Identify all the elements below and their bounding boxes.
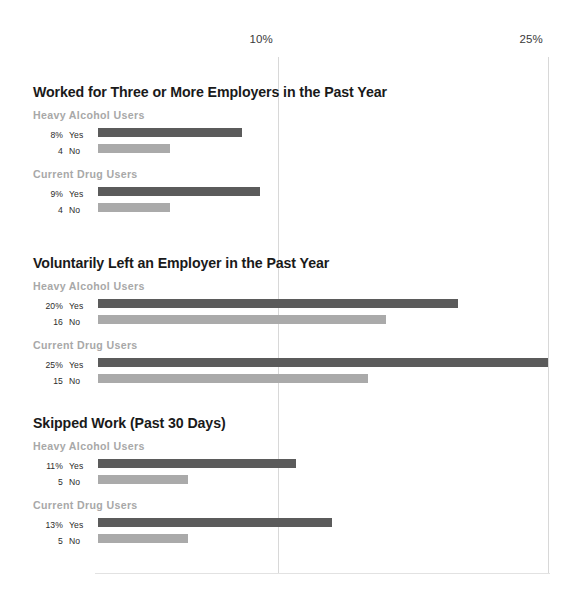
bar-category-label: Yes <box>69 301 83 311</box>
bar-value-label: 9% <box>33 189 63 199</box>
bar-value-label: 5 <box>33 477 63 487</box>
bar-value-label: 20% <box>33 301 63 311</box>
bar-value-label: 8% <box>33 130 63 140</box>
bar-value-label: 15 <box>33 376 63 386</box>
bar-row: 9%Yes <box>33 187 387 200</box>
bar-group: Heavy Alcohol Users8%Yes4No <box>33 109 387 157</box>
bar-row: 16No <box>33 315 329 328</box>
bar-category-label: Yes <box>69 360 83 370</box>
bar-row: 11%Yes <box>33 459 226 472</box>
bar-track <box>98 203 170 212</box>
bar-fill-no <box>98 203 170 212</box>
bar-value-label: 4 <box>33 146 63 156</box>
bar-track <box>98 187 260 196</box>
bar-value-label: 11% <box>33 461 63 471</box>
bar-track <box>98 475 188 484</box>
bar-group: Heavy Alcohol Users20%Yes16No <box>33 280 329 328</box>
bar-group-label: Current Drug Users <box>33 499 226 511</box>
bar-category-label: No <box>69 146 80 156</box>
chart-section: Skipped Work (Past 30 Days)Heavy Alcohol… <box>33 415 226 558</box>
bar-value-label: 13% <box>33 520 63 530</box>
bar-row: 20%Yes <box>33 299 329 312</box>
bar-row: 4No <box>33 144 387 157</box>
bar-fill-no <box>98 475 188 484</box>
bar-track <box>98 534 188 543</box>
bar-group: Heavy Alcohol Users11%Yes5No <box>33 440 226 488</box>
bar-row: 5No <box>33 534 226 547</box>
bar-fill-no <box>98 144 170 153</box>
bar-fill-yes <box>98 518 332 527</box>
chart-root: 10%25% Worked for Three or More Employer… <box>0 0 577 603</box>
bar-category-label: Yes <box>69 461 83 471</box>
bar-category-label: No <box>69 205 80 215</box>
bar-row: 8%Yes <box>33 128 387 141</box>
bar-group-label: Heavy Alcohol Users <box>33 440 226 452</box>
bar-category-label: No <box>69 477 80 487</box>
bar-track <box>98 374 368 383</box>
bar-fill-yes <box>98 358 548 367</box>
bar-fill-no <box>98 534 188 543</box>
bar-track <box>98 128 242 137</box>
bar-row: 4No <box>33 203 387 216</box>
bar-track <box>98 358 548 367</box>
bar-fill-yes <box>98 128 242 137</box>
bar-row: 15No <box>33 374 329 387</box>
bar-fill-yes <box>98 187 260 196</box>
axis-tick-label: 25% <box>519 33 549 45</box>
bar-category-label: No <box>69 317 80 327</box>
bar-group-label: Current Drug Users <box>33 168 387 180</box>
bar-track <box>98 144 170 153</box>
bar-value-label: 4 <box>33 205 63 215</box>
bar-category-label: No <box>69 536 80 546</box>
bar-group: Current Drug Users13%Yes5No <box>33 499 226 547</box>
bar-value-label: 25% <box>33 360 63 370</box>
bar-row: 5No <box>33 475 226 488</box>
bar-category-label: Yes <box>69 189 83 199</box>
bar-group-label: Heavy Alcohol Users <box>33 280 329 292</box>
bar-fill-yes <box>98 459 296 468</box>
bar-fill-no <box>98 315 386 324</box>
bar-row: 13%Yes <box>33 518 226 531</box>
bar-track <box>98 518 332 527</box>
bar-fill-no <box>98 374 368 383</box>
bar-group-label: Heavy Alcohol Users <box>33 109 387 121</box>
chart-section: Worked for Three or More Employers in th… <box>33 84 387 227</box>
section-title: Voluntarily Left an Employer in the Past… <box>33 255 329 271</box>
section-title: Worked for Three or More Employers in th… <box>33 84 387 100</box>
bar-value-label: 16 <box>33 317 63 327</box>
gridline-25pct <box>548 57 549 573</box>
bar-category-label: Yes <box>69 520 83 530</box>
bar-fill-yes <box>98 299 458 308</box>
axis-tick-label: 10% <box>249 33 279 45</box>
bar-row: 25%Yes <box>33 358 329 371</box>
chart-baseline <box>95 573 550 574</box>
section-title: Skipped Work (Past 30 Days) <box>33 415 226 431</box>
bar-category-label: No <box>69 376 80 386</box>
bar-track <box>98 459 296 468</box>
chart-section: Voluntarily Left an Employer in the Past… <box>33 255 329 398</box>
bar-category-label: Yes <box>69 130 83 140</box>
bar-group: Current Drug Users9%Yes4No <box>33 168 387 216</box>
bar-value-label: 5 <box>33 536 63 546</box>
bar-track <box>98 315 386 324</box>
bar-track <box>98 299 458 308</box>
bar-group: Current Drug Users25%Yes15No <box>33 339 329 387</box>
bar-group-label: Current Drug Users <box>33 339 329 351</box>
